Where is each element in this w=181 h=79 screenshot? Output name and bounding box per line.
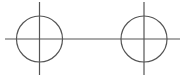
diagram-canvas — [0, 0, 181, 79]
diagram-svg — [0, 0, 181, 79]
